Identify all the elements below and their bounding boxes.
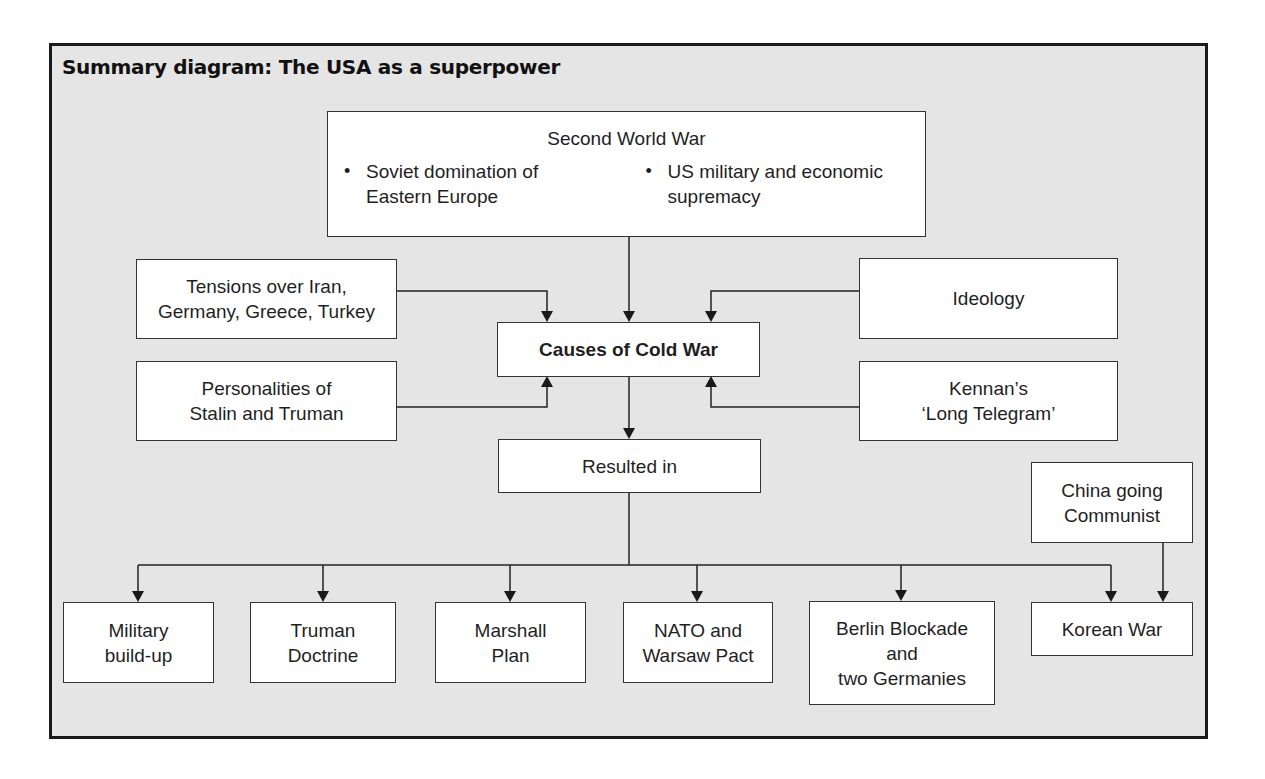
- box-text: Berlin Blockade: [836, 616, 968, 641]
- box-text: Stalin and Truman: [189, 401, 343, 426]
- box-text: NATO and: [654, 618, 742, 643]
- diagram-title: Summary diagram: The USA as a superpower: [62, 55, 560, 79]
- bullet-dot-icon: •: [344, 159, 366, 209]
- military-buildup-box: Military build-up: [63, 602, 214, 683]
- ideology-box: Ideology: [859, 258, 1118, 339]
- bullet-us-supremacy: • US military and economic supremacy: [624, 159, 926, 209]
- causes-of-cold-war-box: Causes of Cold War: [497, 322, 760, 377]
- personalities-box: Personalities of Stalin and Truman: [136, 361, 397, 441]
- nato-warsaw-box: NATO and Warsaw Pact: [623, 602, 773, 683]
- box-text: two Germanies: [838, 666, 966, 691]
- box-text: Marshall: [475, 618, 547, 643]
- box-text: Truman: [291, 618, 356, 643]
- box-text: and: [886, 641, 918, 666]
- box-text: Military: [108, 618, 168, 643]
- box-text: Tensions over Iran,: [186, 274, 347, 299]
- box-text: Causes of Cold War: [539, 337, 718, 362]
- box-text: Warsaw Pact: [642, 643, 753, 668]
- box-text: Kennan’s: [949, 376, 1028, 401]
- second-world-war-heading: Second World War: [547, 126, 705, 151]
- box-text: Plan: [491, 643, 529, 668]
- marshall-plan-box: Marshall Plan: [435, 602, 586, 683]
- box-text: Korean War: [1062, 617, 1163, 642]
- china-communist-box: China going Communist: [1031, 462, 1193, 543]
- box-text: Doctrine: [288, 643, 359, 668]
- box-text: Personalities of: [202, 376, 332, 401]
- box-text: China going: [1061, 478, 1162, 503]
- bullet-text: supremacy: [668, 184, 883, 209]
- box-text: Resulted in: [582, 454, 677, 479]
- bullet-text: US military and economic: [668, 159, 883, 184]
- box-text: Communist: [1064, 503, 1160, 528]
- tensions-box: Tensions over Iran, Germany, Greece, Tur…: [136, 259, 397, 339]
- resulted-in-box: Resulted in: [498, 439, 761, 493]
- second-world-war-box: Second World War • Soviet domination of …: [327, 111, 926, 237]
- truman-doctrine-box: Truman Doctrine: [250, 602, 396, 683]
- second-world-war-bullets: • Soviet domination of Eastern Europe • …: [328, 159, 925, 209]
- bullet-text: Eastern Europe: [366, 184, 538, 209]
- kennan-telegram-box: Kennan’s ‘Long Telegram’: [859, 361, 1118, 441]
- korean-war-box: Korean War: [1031, 602, 1193, 656]
- box-text: Ideology: [953, 286, 1025, 311]
- bullet-dot-icon: •: [646, 159, 668, 209]
- berlin-blockade-box: Berlin Blockade and two Germanies: [809, 601, 995, 705]
- box-text: build-up: [105, 643, 173, 668]
- bullet-soviet-domination: • Soviet domination of Eastern Europe: [328, 159, 624, 209]
- box-text: Germany, Greece, Turkey: [158, 299, 375, 324]
- bullet-text: Soviet domination of: [366, 159, 538, 184]
- box-text: ‘Long Telegram’: [922, 401, 1056, 426]
